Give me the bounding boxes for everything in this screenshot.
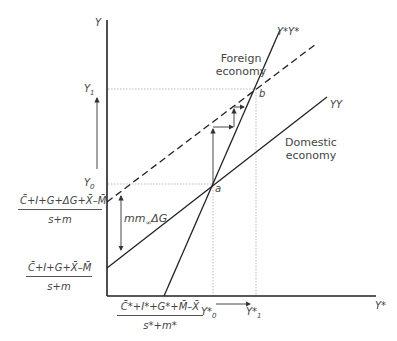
y1star-label: Y*1 [246, 307, 262, 320]
x-axis-label: Y* [375, 301, 386, 311]
y0star-label: Y*0 [201, 307, 217, 320]
foreign-economy-label: Foreign economy [211, 52, 271, 78]
y-axis-label: Y [95, 18, 101, 28]
original-intercept-fraction: C̄+I+G+X̄–M̄ s+m [26, 262, 92, 292]
y1-label: Y1 [84, 84, 95, 97]
ystar-ystar-label: Y*Y* [277, 27, 299, 37]
two-country-income-diagram: Y Y* Y*Y* YY Foreign economy Domestic ec… [0, 0, 397, 341]
yy-label: YY [330, 100, 342, 110]
shift-multiplier-label: mm∞ΔG [124, 213, 167, 227]
domestic-economy-label: Domestic economy [276, 136, 346, 162]
point-b-label: b [259, 89, 265, 99]
foreign-intercept-fraction: C̄*+I*+G*+M̄–X̄ s*+m* [117, 301, 203, 331]
point-a-label: a [215, 184, 221, 194]
y0-label: Y0 [84, 178, 95, 191]
shifted-intercept-fraction: C̄+I+G+ΔG+X̄–M̄ s+m [18, 195, 102, 225]
